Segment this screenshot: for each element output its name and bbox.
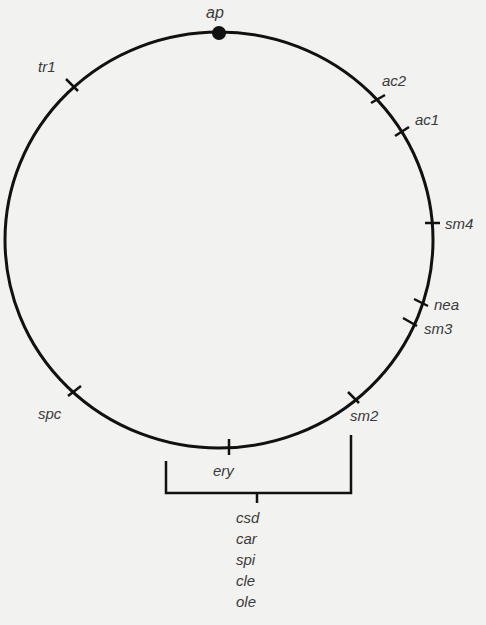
cluster-label-cle: cle bbox=[236, 573, 255, 588]
cluster-label-list: csd car spi cle ole bbox=[236, 510, 259, 615]
marker-label-ac1: ac1 bbox=[415, 112, 439, 127]
marker-label-spc: spc bbox=[38, 406, 61, 421]
cluster-label-car: car bbox=[236, 531, 257, 546]
cluster-label-spi: spi bbox=[236, 552, 255, 567]
chromosome-circle bbox=[5, 32, 433, 448]
marker-ticks bbox=[66, 79, 440, 455]
cluster-label-csd: csd bbox=[236, 510, 259, 525]
marker-label-sm4: sm4 bbox=[445, 216, 473, 231]
marker-label-nea: nea bbox=[434, 297, 459, 312]
marker-label-sm3: sm3 bbox=[424, 321, 452, 336]
marker-label-ery: ery bbox=[213, 463, 234, 478]
marker-label-ac2: ac2 bbox=[382, 73, 406, 88]
marker-label-ap: ap bbox=[206, 5, 224, 21]
ap-origin-dot bbox=[212, 26, 226, 40]
marker-label-tr1: tr1 bbox=[38, 59, 56, 74]
marker-label-sm2: sm2 bbox=[350, 408, 378, 423]
cluster-label-ole: ole bbox=[236, 594, 256, 609]
